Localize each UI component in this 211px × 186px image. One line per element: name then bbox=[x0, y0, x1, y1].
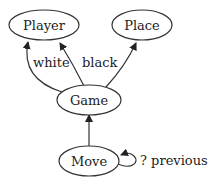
edge-label-previous: ? previous bbox=[140, 153, 208, 168]
edge-label-white: white bbox=[33, 55, 70, 70]
node-place-label: Place bbox=[124, 18, 160, 33]
node-move-label: Move bbox=[71, 154, 107, 169]
node-player-label: Player bbox=[23, 18, 66, 33]
diagram-canvas: Player Place Game Move white black ? pre… bbox=[0, 0, 211, 186]
edge-label-black: black bbox=[82, 55, 118, 70]
node-player[interactable]: Player bbox=[9, 10, 79, 40]
node-game[interactable]: Game bbox=[57, 85, 121, 115]
edge-move-self bbox=[118, 153, 136, 166]
node-move[interactable]: Move bbox=[59, 146, 119, 176]
node-place[interactable]: Place bbox=[112, 10, 172, 40]
node-game-label: Game bbox=[70, 93, 108, 108]
